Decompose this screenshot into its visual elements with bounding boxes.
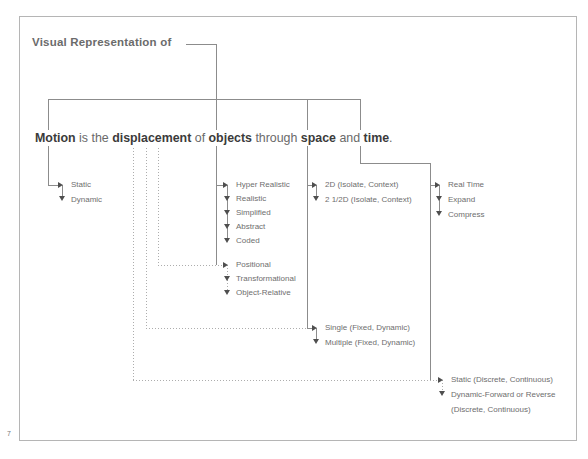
- label-discrete-continued: (Discrete, Continuous): [451, 405, 531, 415]
- word-time: time: [364, 131, 389, 145]
- label-2half-d: 2 1/2D (Isolate, Context): [325, 195, 412, 205]
- page-number: 7: [7, 430, 11, 437]
- right-arrow-icon: [312, 325, 317, 331]
- right-arrow-icon: [435, 182, 440, 188]
- right-arrow-icon: [58, 182, 63, 188]
- label-abstract: Abstract: [236, 222, 265, 232]
- time-branch-elbow: [360, 163, 431, 164]
- down-arrow-icon: [436, 211, 442, 216]
- down-arrow-icon: [313, 339, 319, 344]
- right-arrow-icon: [438, 377, 443, 383]
- word-motion: Motion: [35, 131, 76, 145]
- down-arrow-icon: [59, 196, 65, 201]
- word-space: space: [301, 131, 336, 145]
- down-arrow-icon: [224, 210, 230, 215]
- title-connector-line: [186, 44, 216, 45]
- time-branch-line-lower: [430, 163, 431, 380]
- dotted-column-2: [146, 148, 147, 328]
- word-objects: objects: [209, 131, 252, 145]
- representation-group-stub: [216, 185, 223, 186]
- label-coded: Coded: [236, 236, 260, 246]
- diagram-canvas: Static Dynamic Hyper Realistic Realistic…: [0, 0, 588, 459]
- label-dynamic: Dynamic: [71, 195, 102, 205]
- dotted-link-single: [146, 328, 307, 329]
- label-static-discrete: Static (Discrete, Continuous): [451, 375, 553, 385]
- label-simplified: Simplified: [236, 208, 271, 218]
- right-arrow-icon: [223, 262, 228, 268]
- label-single: Single (Fixed, Dynamic): [325, 323, 410, 333]
- label-multiple: Multiple (Fixed, Dynamic): [325, 338, 415, 348]
- right-arrow-icon: [312, 182, 317, 188]
- down-arrow-icon: [224, 196, 230, 201]
- dotted-column-3: [158, 148, 159, 265]
- sentence-top-line: [48, 99, 361, 100]
- label-static: Static: [71, 180, 91, 190]
- label-hyper-realistic: Hyper Realistic: [236, 180, 290, 190]
- label-transformational: Transformational: [236, 274, 296, 284]
- right-arrow-icon: [223, 182, 228, 188]
- down-arrow-icon: [224, 276, 230, 281]
- definition-sentence: Motion is the displacement of objects th…: [33, 130, 395, 146]
- down-arrow-icon: [439, 391, 445, 396]
- down-arrow-icon: [313, 196, 319, 201]
- dotted-link-positional: [158, 265, 223, 266]
- label-realistic: Realistic: [236, 194, 266, 204]
- label-real-time: Real Time: [448, 180, 484, 190]
- label-dynamic-forward: Dynamic-Forward or Reverse: [451, 390, 555, 400]
- down-arrow-icon: [436, 196, 442, 201]
- down-arrow-icon: [224, 290, 230, 295]
- word-period: .: [389, 131, 392, 145]
- objects-branch-line: [216, 44, 217, 265]
- label-object-relative: Object-Relative: [236, 288, 291, 298]
- dotted-link-playback: [133, 380, 438, 381]
- label-2d: 2D (Isolate, Context): [325, 180, 398, 190]
- page-title: Visual Representation of: [32, 36, 173, 48]
- word-and: and: [336, 131, 364, 145]
- word-through: through: [252, 131, 301, 145]
- label-compress: Compress: [448, 210, 484, 220]
- dotted-column-1: [133, 148, 134, 380]
- label-positional: Positional: [236, 260, 271, 270]
- word-displacement: displacement: [112, 131, 191, 145]
- down-arrow-icon: [224, 224, 230, 229]
- down-arrow-icon: [224, 238, 230, 243]
- word-of: of: [191, 131, 208, 145]
- label-expand: Expand: [448, 195, 475, 205]
- motion-group-stub: [48, 185, 58, 186]
- word-is-the: is the: [76, 131, 113, 145]
